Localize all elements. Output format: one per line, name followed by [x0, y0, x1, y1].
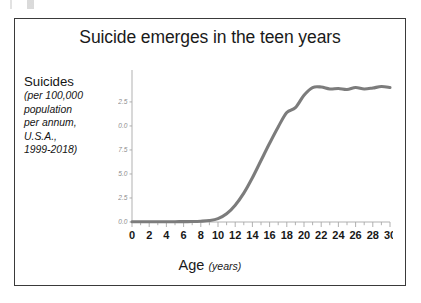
data-series-group [132, 87, 390, 222]
x-axis-tick-label: 22 [315, 229, 327, 239]
y-axis-caption-main: Suicides [24, 75, 104, 88]
x-axis-tick-label: 8 [198, 229, 204, 239]
y-axis-tick-label: 0.0 [118, 218, 127, 225]
x-axis-tick-label: 14 [246, 229, 259, 239]
y-caption-line-5: 1999-2018) [24, 143, 104, 156]
x-axis-tick-label: 20 [298, 229, 310, 239]
plot-area: 0.02.55.07.510.012.5 0246810121416182022… [118, 64, 393, 239]
y-axis-caption: Suicides (per 100,000 population per ann… [24, 75, 104, 156]
y-caption-line-4: U.S.A., [24, 130, 104, 143]
y-axis-tick-label: 12.5 [118, 98, 128, 105]
scan-artifact [10, 0, 56, 9]
y-axis-tick-label: 7.5 [118, 146, 127, 153]
x-axis-tick-label: 30 [384, 229, 393, 239]
y-axis: 0.02.55.07.510.012.5 [118, 70, 132, 225]
x-axis-tick-label: 18 [281, 229, 293, 239]
line-chart-svg: 0.02.55.07.510.012.5 0246810121416182022… [118, 64, 393, 239]
y-caption-line-2: population [24, 103, 104, 116]
x-axis-tick-label: 12 [229, 229, 241, 239]
x-axis-title: Age (years) [15, 257, 405, 273]
x-axis-tick-label: 6 [181, 229, 187, 239]
y-caption-line-1: (per 100,000 [24, 89, 104, 102]
y-axis-tick-label: 10.0 [118, 122, 128, 129]
data-line-suicide-rate [132, 87, 390, 222]
x-axis-tick-label: 26 [349, 229, 361, 239]
x-axis-tick-label: 0 [129, 229, 135, 239]
x-axis-tick-label: 4 [163, 229, 170, 239]
chart-title: Suicide emerges in the teen years [15, 27, 405, 48]
x-axis-tick-label: 16 [263, 229, 275, 239]
x-axis-tick-label: 28 [367, 229, 379, 239]
x-axis-title-text: Age [179, 257, 205, 273]
figure-frame: Suicide emerges in the teen years Suicid… [14, 18, 406, 286]
y-caption-line-3: per annum, [24, 116, 104, 129]
y-axis-tick-label: 2.5 [118, 194, 128, 201]
x-axis: 024681012141618202224262830 [129, 222, 393, 239]
x-axis-title-unit: (years) [208, 260, 241, 272]
x-axis-tick-label: 2 [146, 229, 152, 239]
x-axis-tick-label: 24 [332, 229, 345, 239]
y-axis-tick-label: 5.0 [118, 170, 127, 177]
x-axis-tick-label: 10 [212, 229, 224, 239]
y-axis-caption-sub: (per 100,000 population per annum, U.S.A… [24, 89, 104, 156]
